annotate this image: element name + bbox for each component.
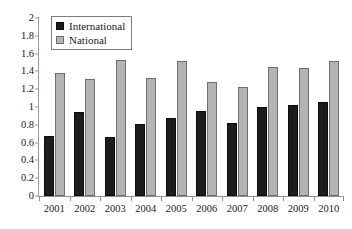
bar-international-2003 — [105, 137, 115, 196]
bar-group-2006 — [192, 18, 223, 196]
x-tick-mark — [253, 196, 254, 201]
x-tick-mark — [222, 196, 223, 201]
y-tick-label: 1.2 — [21, 84, 34, 95]
x-tick-cell-2004 — [131, 196, 162, 201]
x-tick-mark — [39, 196, 40, 201]
bar-international-2001 — [44, 136, 54, 196]
x-tick-mark — [283, 196, 284, 201]
x-tick-cell-2007 — [222, 196, 253, 201]
y-tick-label: 2 — [29, 13, 34, 24]
x-tick-mark — [70, 196, 71, 201]
y-tick-label: 1.8 — [21, 31, 34, 42]
x-tick-cell-2005 — [161, 196, 192, 201]
bar-national-2010 — [329, 61, 339, 196]
x-axis-label-2008: 2008 — [253, 203, 284, 215]
bar-national-2006 — [207, 82, 217, 196]
bar-chart: 00.20.40.60.811.21.41.61.82 200120022003… — [0, 0, 352, 229]
legend-label-national: National — [69, 34, 107, 47]
y-tick-label: 0.4 — [21, 155, 34, 166]
legend-swatch-icon-international — [56, 22, 64, 30]
x-tick-mark — [131, 196, 132, 201]
x-axis-label-2004: 2004 — [131, 203, 162, 215]
x-tick-cell-2003 — [100, 196, 131, 201]
x-tick-cell-2009 — [283, 196, 314, 201]
bar-international-2010 — [318, 102, 328, 196]
bar-national-2003 — [116, 60, 126, 196]
bar-group-2010 — [314, 18, 345, 196]
x-tick-cell-2002 — [70, 196, 101, 201]
x-tick-mark — [161, 196, 162, 201]
x-axis-label-2006: 2006 — [192, 203, 223, 215]
x-axis-label-2010: 2010 — [314, 203, 345, 215]
bar-international-2005 — [166, 118, 176, 196]
x-axis-label-2009: 2009 — [283, 203, 314, 215]
bar-national-2008 — [268, 67, 278, 196]
x-axis-labels: 2001200220032004200520062007200820092010 — [39, 203, 344, 215]
bar-international-2007 — [227, 123, 237, 196]
x-tick-mark — [314, 196, 315, 201]
x-tick-cell-2010 — [314, 196, 345, 201]
x-axis-label-2005: 2005 — [161, 203, 192, 215]
y-tick-label: 1.4 — [21, 66, 34, 77]
bar-group-2004 — [131, 18, 162, 196]
bar-national-2002 — [85, 79, 95, 196]
bar-international-2002 — [74, 112, 84, 196]
chart-legend: International National — [51, 16, 132, 50]
x-tick-mark — [192, 196, 193, 201]
bar-international-2008 — [257, 107, 267, 196]
bar-national-2001 — [55, 73, 65, 196]
bar-international-2004 — [135, 124, 145, 196]
legend-item-international: International — [56, 20, 125, 33]
bar-group-2009 — [283, 18, 314, 196]
bar-group-2007 — [222, 18, 253, 196]
bar-national-2004 — [146, 78, 156, 196]
x-axis-label-2001: 2001 — [39, 203, 70, 215]
bar-national-2009 — [299, 68, 309, 196]
bar-national-2007 — [238, 87, 248, 196]
legend-swatch-icon-national — [56, 36, 64, 44]
x-axis-label-2003: 2003 — [100, 203, 131, 215]
y-tick-label: 0.8 — [21, 120, 34, 131]
x-tick-mark-end — [343, 196, 344, 201]
bar-national-2005 — [177, 61, 187, 196]
y-tick-label: 0.2 — [21, 173, 34, 184]
y-tick-label: 0 — [29, 191, 34, 202]
y-tick-label: 1 — [29, 102, 34, 113]
x-tick-cell-2006 — [192, 196, 223, 201]
x-tick-mark — [100, 196, 101, 201]
bar-international-2009 — [288, 105, 298, 196]
x-axis-ticks — [39, 196, 344, 201]
y-tick-label: 0.6 — [21, 137, 34, 148]
bar-group-2005 — [161, 18, 192, 196]
y-tick-label: 1.6 — [21, 48, 34, 59]
x-axis-label-2002: 2002 — [70, 203, 101, 215]
bar-international-2006 — [196, 111, 206, 196]
x-tick-cell-2008 — [253, 196, 284, 201]
bar-group-2008 — [253, 18, 284, 196]
legend-label-international: International — [69, 20, 125, 33]
legend-item-national: National — [56, 34, 125, 47]
x-axis-label-2007: 2007 — [222, 203, 253, 215]
x-tick-cell-2001 — [39, 196, 70, 201]
